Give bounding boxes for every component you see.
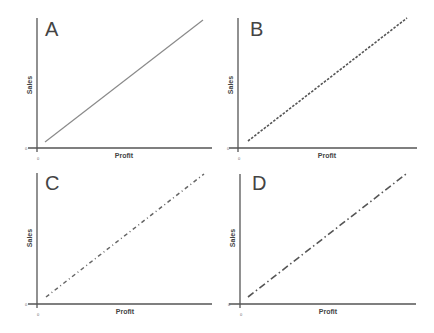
x-tick-zero: 0 [238,156,241,161]
y-axis-title: Sales [229,229,236,247]
x-tick-zero: 0 [37,312,40,317]
y-axis-title: Sales [26,76,33,94]
y-axis-title: Sales [26,229,33,247]
x-axis-title: Profit [115,152,134,159]
panel-label: A [45,18,59,40]
data-line-dash-dot [46,174,204,297]
x-axis-title: Profit [319,308,338,315]
y-tick-zero: 0 [25,302,28,307]
data-line-long-dash-dot [248,174,406,297]
panel-c: C Profit Sales 0 0 [25,172,212,317]
panel-label: B [250,18,263,40]
panel-b: B Profit Sales 0 0 [227,18,417,161]
panel-a: A Profit Sales 0 0 [25,18,212,161]
x-tick-zero: 0 [240,312,243,317]
panel-label: D [252,172,266,194]
x-tick-zero: 0 [37,156,40,161]
y-tick-zero: 0 [25,146,28,151]
chart-grid: A Profit Sales 0 0 B Profit Sales 0 0 C … [0,0,434,333]
panel-d: D Profit Sales 0 0 [228,172,416,317]
x-axis-title: Profit [116,308,135,315]
data-line-solid [45,20,203,142]
y-axis-title: Sales [227,76,234,94]
data-line-dashed [248,18,407,141]
panel-label: C [45,172,59,194]
x-axis-title: Profit [318,152,337,159]
